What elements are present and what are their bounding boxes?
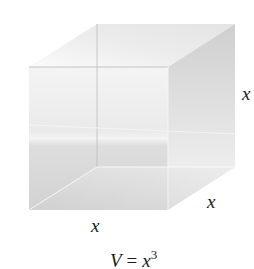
formula-equals: = <box>127 250 138 269</box>
label-height: x <box>242 84 250 103</box>
cube-diagram <box>0 0 254 269</box>
formula-base: x <box>142 250 150 269</box>
formula-lhs: V <box>110 250 122 269</box>
label-depth: x <box>207 192 215 211</box>
formula-exponent: 3 <box>151 247 158 262</box>
volume-formula: V=x3 <box>110 249 157 269</box>
label-width: x <box>91 216 99 235</box>
